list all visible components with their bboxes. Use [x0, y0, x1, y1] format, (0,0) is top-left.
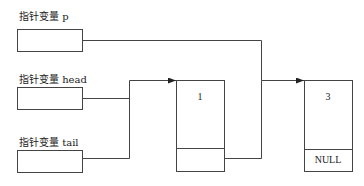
pointer-p-box [18, 30, 83, 52]
pointer-head-box [18, 88, 83, 110]
node-3-next: NULL [304, 154, 352, 166]
node-1-data: 1 [176, 91, 224, 103]
pointer-p-arrow [83, 41, 305, 81]
pointer-tail-box [18, 151, 83, 173]
head-tail-arrow [130, 81, 177, 159]
node-3-data: 3 [304, 91, 352, 103]
node-1-next-line [225, 81, 262, 159]
